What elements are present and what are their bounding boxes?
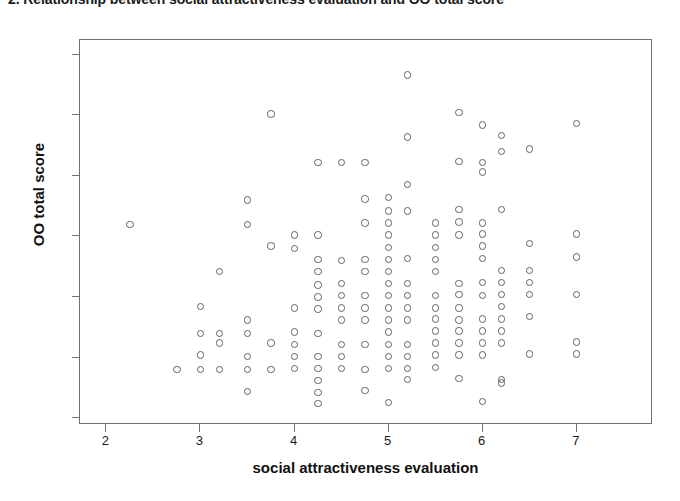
data-point [338,292,345,299]
data-point [455,304,462,311]
x-axis-tick-label: 7 [561,434,591,447]
data-point [314,256,321,263]
data-point [404,353,411,360]
data-point [455,351,462,358]
x-axis-title: social attractiveness evaluation [79,459,652,476]
data-point [291,365,298,372]
data-point [385,231,392,238]
data-point [291,341,298,348]
data-point [526,313,533,320]
data-point [361,292,368,299]
data-point [432,327,439,334]
data-point [385,365,392,372]
data-point [526,267,533,274]
data-point [338,159,345,166]
data-point [385,280,392,287]
figure-title: 2. Relationship between social attractiv… [8,0,528,9]
x-axis-tick-label: 4 [279,434,309,447]
data-point [197,366,204,373]
data-point [404,255,411,262]
x-axis-tick [388,424,389,432]
data-point [479,327,486,334]
data-point [197,330,204,337]
data-point [314,281,321,288]
x-axis-tick-label: 5 [373,434,403,447]
data-point [361,195,368,202]
data-point [385,292,392,299]
data-point [479,219,486,226]
data-point [526,145,533,152]
data-point [361,387,368,394]
data-point [385,353,392,360]
data-point [267,242,274,249]
data-point [244,316,251,323]
data-point [432,219,439,226]
data-point [216,366,223,373]
data-point [404,365,411,372]
data-point [314,305,321,312]
data-point [455,231,462,238]
data-point [361,219,368,226]
data-point [338,304,345,311]
data-point [432,364,439,371]
data-point [404,341,411,348]
data-point [479,279,486,286]
data-point [526,291,533,298]
data-point [216,330,223,337]
data-point [267,366,274,373]
data-point [173,366,180,373]
data-point [291,304,298,311]
data-point [498,339,505,346]
data-point [404,292,411,299]
data-point [479,292,486,299]
data-point [291,353,298,360]
data-point [404,133,411,140]
x-axis-tick-label: 3 [184,434,214,447]
data-point [404,71,411,78]
data-point [432,351,439,358]
data-point [126,221,133,228]
data-point [314,268,321,275]
data-point [291,245,298,252]
data-point [479,398,486,405]
data-point [432,268,439,275]
data-point [197,351,204,358]
data-point [479,230,486,237]
data-point [573,230,580,237]
data-point [455,280,462,287]
data-point [455,316,462,323]
x-axis-tick-label: 6 [467,434,497,447]
data-point [244,196,251,203]
y-axis-title: OO total score [30,85,47,305]
data-point [314,353,321,360]
data-point [244,330,251,337]
data-point [314,293,321,300]
data-point [216,339,223,346]
data-point [361,316,368,323]
data-point [361,256,368,263]
data-point [244,221,251,228]
data-point [338,353,345,360]
x-axis-tick [105,424,106,432]
x-axis-tick [199,424,200,432]
data-point [432,315,439,322]
data-point [197,303,204,310]
data-point [385,256,392,263]
data-point [404,376,411,383]
data-point [338,316,345,323]
data-point [385,194,392,201]
data-point [314,400,321,407]
data-point [385,399,392,406]
data-point [244,366,251,373]
data-point [267,339,274,346]
data-point [361,268,368,275]
data-point [573,338,580,345]
data-point [573,350,580,357]
data-point [314,330,321,337]
data-point [291,231,298,238]
data-point [432,244,439,251]
plot-frame [79,39,652,424]
data-point [385,244,392,251]
data-point [338,365,345,372]
data-point [361,366,368,373]
